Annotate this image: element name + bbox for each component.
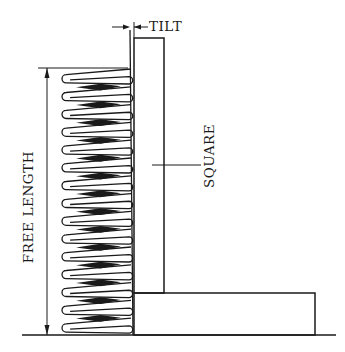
spring-coil-shadow — [76, 119, 121, 126]
spring-coil-shadow — [76, 208, 121, 215]
spring-coil — [62, 69, 133, 84]
free-length-label: FREE LENGTH — [20, 151, 36, 263]
square-label: SQUARE — [201, 124, 217, 188]
spring-coil-shadow — [76, 101, 121, 108]
spring-coil-shadow — [76, 279, 121, 286]
arrow-down-icon — [45, 325, 50, 335]
spring-coil-shadow — [76, 190, 121, 197]
spring-coil-shadow — [76, 226, 121, 233]
arrow-left-icon — [134, 25, 141, 30]
spring-coil-shadow — [76, 244, 121, 251]
arrow-right-icon — [123, 25, 130, 30]
spring-coil-shadow — [76, 84, 121, 91]
spring-tilt-square-diagram: FREE LENGTH TILT SQUARE — [0, 0, 345, 352]
arrow-up-icon — [45, 68, 50, 78]
spring-coil-shadow — [76, 155, 121, 162]
spring-coil-shadow — [76, 297, 121, 304]
compression-spring — [62, 69, 133, 333]
spring-coil-shadow — [76, 137, 121, 144]
spring-tilt-edge — [130, 30, 133, 335]
tilt-label: TILT — [149, 18, 182, 34]
base-block — [134, 293, 315, 335]
spring-coil-shadow — [76, 262, 121, 269]
spring-coil-shadow — [76, 315, 121, 322]
spring-coil-shadow — [76, 173, 121, 180]
